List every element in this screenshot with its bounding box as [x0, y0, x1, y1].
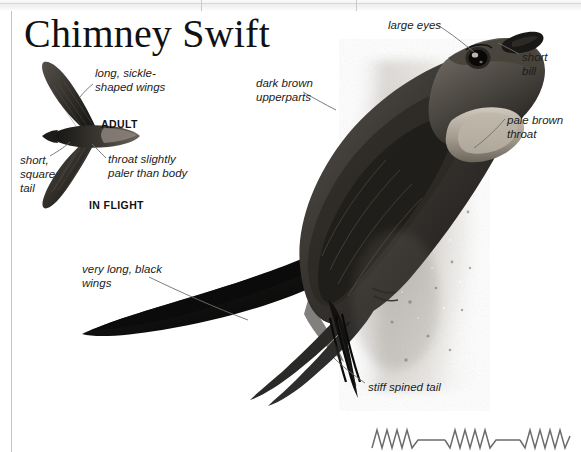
- label-large-eyes: large eyes: [388, 18, 441, 32]
- artwork-layer: [0, 0, 581, 452]
- label-stiff-spined-tail: stiff spined tail: [368, 380, 441, 394]
- chimney-wall-texture: [330, 45, 486, 415]
- page-border-left: [11, 11, 12, 452]
- scanner-edge-strip: [0, 0, 581, 11]
- page-title: Chimney Swift: [24, 12, 270, 56]
- label-short-bill: short bill: [522, 50, 548, 78]
- label-pale-brown-throat: pale brown throat: [507, 113, 563, 141]
- label-dark-brown-upperparts: dark brown upperparts: [256, 76, 313, 104]
- stiff-spined-tail: [328, 300, 360, 398]
- eye: [466, 45, 493, 69]
- label-very-long-black-wings: very long, black wings: [82, 262, 162, 290]
- caption-in-flight: IN FLIGHT: [89, 199, 144, 211]
- strip-horizontal-rule: [0, 3, 581, 4]
- strip-divider-2: [356, 0, 357, 11]
- label-throat-slightly-paler: throat slightly paler than body: [108, 152, 187, 180]
- label-short-square-tail: short, square tail: [20, 153, 55, 195]
- chimney-swift-sonogram: [370, 426, 575, 452]
- caption-adult: ADULT: [101, 118, 138, 130]
- field-guide-page: Chimney Swift long, sickle- shaped wings…: [0, 0, 581, 452]
- label-long-sickle-shaped-wings: long, sickle- shaped wings: [95, 66, 165, 94]
- strip-divider-1: [201, 0, 202, 11]
